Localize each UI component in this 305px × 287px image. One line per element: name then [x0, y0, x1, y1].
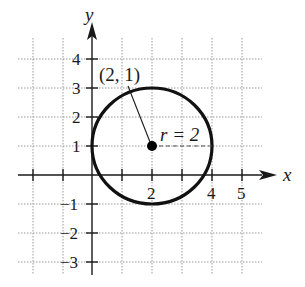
x-tick-label-4: 4	[207, 184, 216, 203]
x-tick-label-2: 2	[147, 184, 156, 203]
x-tick-label-5: 5	[237, 184, 246, 203]
y-tick-label-4: 4	[72, 50, 81, 69]
y-tick-label-minus-1: −1	[60, 195, 78, 214]
radius-label: r = 2	[160, 124, 200, 145]
y-tick-label-3: 3	[72, 79, 81, 98]
center-point-label: (2, 1)	[99, 64, 140, 86]
center-point	[147, 141, 157, 151]
x-axis	[18, 169, 277, 181]
y-tick-label-minus-3: −3	[60, 253, 78, 272]
y-tick-label-1: 1	[72, 137, 81, 156]
center-leader-line	[128, 86, 150, 142]
x-axis-label: x	[282, 164, 292, 185]
circle-graph: x y 2 4 5 4 3 2 1 −1 −2 −3 (2, 1) r = 2	[0, 0, 305, 287]
y-tick-label-minus-2: −2	[60, 224, 78, 243]
y-tick-label-2: 2	[72, 108, 81, 127]
coordinate-plane: x y 2 4 5 4 3 2 1 −1 −2 −3 (2, 1) r = 2	[0, 0, 305, 287]
y-axis-label: y	[83, 4, 94, 25]
